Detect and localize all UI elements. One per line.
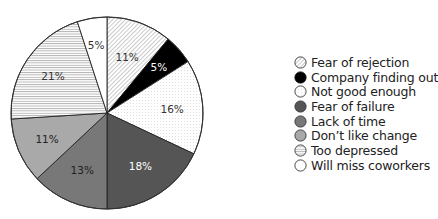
legend-item-will-miss-coworkers: Will miss coworkers [294,158,438,173]
legend-label: Not good enough [311,84,416,99]
slice-percent-label: 11% [35,133,58,145]
legend-label: Company finding out [311,70,438,85]
horizontal-lines-swatch-icon [294,144,307,157]
legend-item-too-depressed: Too depressed [294,143,438,158]
slice-percent-label: 21% [41,70,64,82]
legend-label: Fear of failure [311,99,394,114]
light-gray-swatch-icon [294,129,307,142]
dotted-swatch-icon [294,85,307,98]
slice-percent-label: 5% [151,61,168,73]
legend-label: Don’t like change [311,128,417,143]
legend-item-fear-of-failure: Fear of failure [294,99,438,114]
legend-label: Will miss coworkers [311,158,430,173]
medium-gray-swatch-icon [294,115,307,128]
black-swatch-icon [294,71,307,84]
slice-percent-label: 18% [129,160,152,172]
legend-item-company-finding-out: Company finding out [294,70,438,85]
legend-label: Lack of time [311,114,386,129]
dark-gray-swatch-icon [294,100,307,113]
diagonal-hatch-swatch-icon [294,56,307,69]
legend-item-dont-like-change: Don’t like change [294,128,438,143]
legend-label: Fear of rejection [311,55,409,70]
slice-percent-label: 5% [88,39,105,51]
slice-percent-label: 13% [71,164,94,176]
slice-percent-label: 16% [160,103,183,115]
legend-item-fear-of-rejection: Fear of rejection [294,55,438,70]
legend-label: Too depressed [311,143,398,158]
legend-item-not-good-enough: Not good enough [294,84,438,99]
legend-item-lack-of-time: Lack of time [294,114,438,129]
slice-percent-label: 11% [115,51,138,63]
legend: Fear of rejection Company finding out No… [294,55,438,173]
white-swatch-icon [294,159,307,172]
